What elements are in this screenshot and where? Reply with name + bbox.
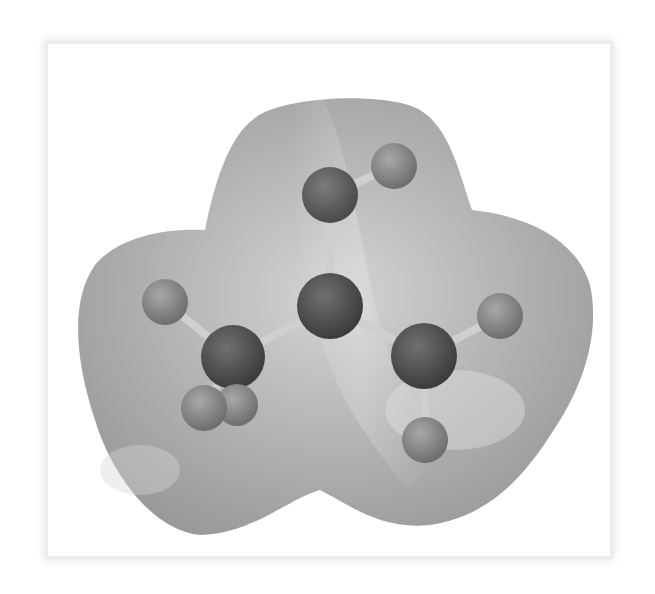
atom-center — [297, 273, 363, 339]
atom-left — [201, 325, 265, 389]
molecule-figure — [0, 0, 655, 594]
atom-hydrogen — [181, 385, 227, 431]
atom-right — [391, 323, 457, 389]
atom-hydrogen — [477, 293, 523, 339]
atom-hydrogen — [402, 417, 448, 463]
atom-oxygen-top — [302, 167, 358, 223]
atom-hydrogen — [142, 279, 188, 325]
atom-hydrogen — [371, 143, 417, 189]
